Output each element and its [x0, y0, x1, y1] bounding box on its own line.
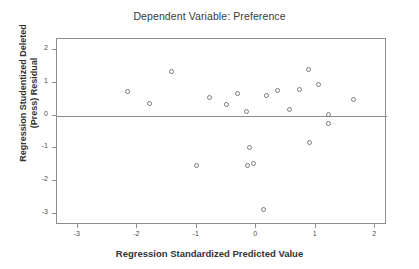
scatter-point: [235, 91, 240, 96]
x-tick-mark: [136, 224, 137, 228]
scatter-point: [245, 163, 250, 168]
scatter-point: [287, 107, 292, 112]
scatter-point: [306, 67, 311, 72]
y-axis-title-line1: Regression Studentized Deleted: [18, 24, 28, 162]
y-tick-label: 2: [32, 44, 48, 51]
y-axis-title: Regression Studentized Deleted (Press) R…: [18, 0, 40, 188]
x-tick-mark: [196, 224, 197, 228]
scatter-point: [247, 145, 252, 150]
zero-reference-line: [57, 116, 387, 117]
y-tick-label: 1: [32, 77, 48, 84]
x-tick-label: 0: [247, 230, 263, 237]
scatter-point: [125, 89, 130, 94]
scatter-point: [244, 109, 249, 114]
y-axis-title-line2: (Press) Residual: [29, 58, 39, 129]
scatter-point: [169, 69, 174, 74]
scatter-point: [326, 121, 331, 126]
scatter-point: [261, 207, 266, 212]
x-tick-mark: [315, 224, 316, 228]
y-tick-label: -1: [32, 142, 48, 149]
scatter-point: [194, 163, 199, 168]
chart-root: Dependent Variable: Preference Regressio…: [0, 0, 419, 269]
scatter-point: [264, 93, 269, 98]
y-tick-label: -2: [32, 175, 48, 182]
scatter-point: [297, 87, 302, 92]
y-tick-label: -3: [32, 208, 48, 215]
x-tick-label: -2: [128, 230, 144, 237]
scatter-point: [316, 82, 321, 87]
scatter-point: [251, 161, 256, 166]
scatter-point: [307, 140, 312, 145]
y-tick-label: 0: [32, 110, 48, 117]
x-tick-label: 2: [366, 230, 382, 237]
scatter-point: [351, 97, 356, 102]
x-axis-title: Regression Standardized Predicted Value: [0, 248, 419, 259]
scatter-point: [207, 95, 212, 100]
x-tick-label: -1: [188, 230, 204, 237]
scatter-point: [275, 88, 280, 93]
scatter-point: [147, 101, 152, 106]
x-tick-mark: [255, 224, 256, 228]
x-tick-mark: [77, 224, 78, 228]
scatter-point: [224, 102, 229, 107]
plot-area: [56, 38, 386, 224]
x-tick-mark: [374, 224, 375, 228]
x-tick-label: -3: [69, 230, 85, 237]
x-tick-label: 1: [307, 230, 323, 237]
